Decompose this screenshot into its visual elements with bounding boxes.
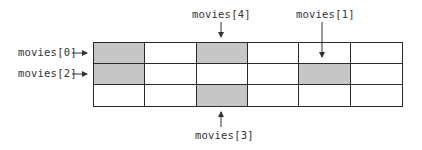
arrows-layer xyxy=(0,0,422,150)
